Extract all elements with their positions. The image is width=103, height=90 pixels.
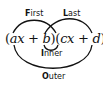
label-outer: Outer [42,73,65,81]
paren: ) [100,31,103,46]
label-last-rest: ast [68,9,80,18]
paren: )( [51,31,61,46]
label-inner-rest: nner [44,49,62,58]
label-first: First [25,10,43,18]
var-b: b [43,31,51,46]
label-outer-initial: O [42,72,49,81]
foil-expression: (ax + b)(cx + d) [5,32,103,45]
plus-sign: + [74,31,92,46]
label-first-rest: irst [30,9,43,18]
label-last: Last [63,10,80,18]
label-inner: Inner [41,50,62,58]
label-outer-rest: uter [49,72,65,81]
plus-sign: + [24,31,42,46]
